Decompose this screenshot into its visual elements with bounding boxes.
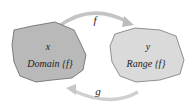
- arrow-g: [66, 84, 138, 100]
- label-f: f: [93, 14, 98, 26]
- range-label: Range {f}: [126, 58, 166, 69]
- label-g: g: [95, 85, 101, 97]
- function-diagram: f g x Domain {f} y Range {f}: [0, 0, 194, 110]
- range-var: y: [145, 41, 151, 52]
- domain-region: [12, 22, 86, 82]
- domain-var: x: [45, 41, 51, 52]
- domain-label: Domain {f}: [26, 58, 73, 69]
- range-region: [110, 28, 184, 82]
